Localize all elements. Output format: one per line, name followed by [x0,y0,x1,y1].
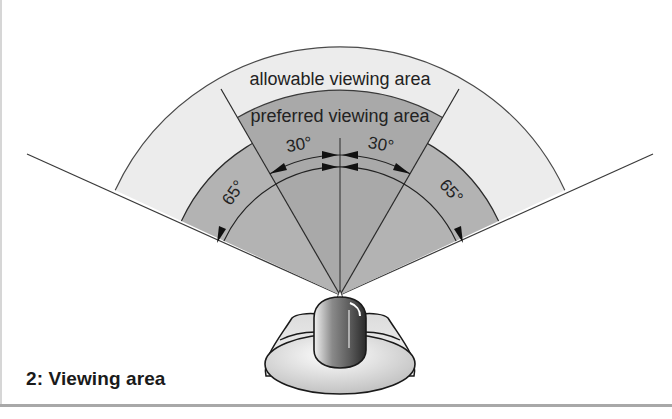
figure-caption: 2: Viewing area [26,368,166,390]
bottom-rule [0,404,672,407]
viewing-area-diagram: allowable viewing area preferred viewing… [0,0,672,419]
label-preferred-area: preferred viewing area [250,106,430,126]
figure-frame: allowable viewing area preferred viewing… [0,0,672,419]
viewer-figure [265,297,415,394]
label-allowable-area: allowable viewing area [249,69,431,89]
